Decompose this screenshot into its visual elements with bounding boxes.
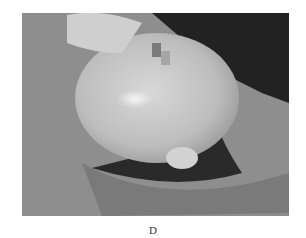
ear <box>166 147 198 169</box>
photo-illustration <box>22 13 289 216</box>
highlight <box>117 90 153 108</box>
panel-label: D <box>0 224 306 236</box>
clinical-photograph <box>22 13 289 216</box>
pixelated-area <box>152 43 161 57</box>
